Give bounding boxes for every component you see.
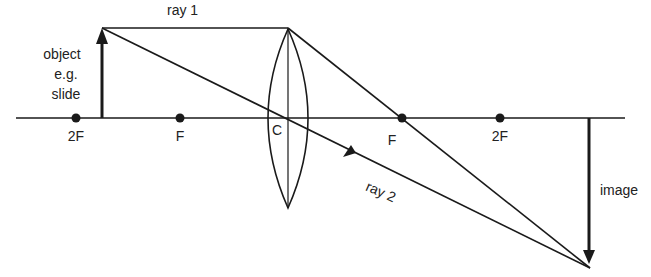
label-f-left: F <box>176 128 185 144</box>
ray-diagram <box>0 0 651 277</box>
label-f-right: F <box>388 132 397 148</box>
point-2f-right <box>496 114 505 123</box>
object-label-1: object <box>43 46 80 62</box>
object-label-3: slide <box>52 86 81 102</box>
point-f-left <box>176 114 185 123</box>
object-label-2: e.g. <box>54 66 77 82</box>
label-2f-left: 2F <box>68 128 84 144</box>
image-arrowhead <box>583 250 595 264</box>
image-label: image <box>600 182 638 198</box>
point-2f-left <box>72 114 81 123</box>
label-2f-right: 2F <box>492 128 508 144</box>
ray-1-refracted <box>288 28 590 268</box>
point-f-right <box>398 114 407 123</box>
label-center: C <box>272 122 282 138</box>
ray-2 <box>102 28 590 268</box>
ray-1-label: ray 1 <box>167 2 198 18</box>
